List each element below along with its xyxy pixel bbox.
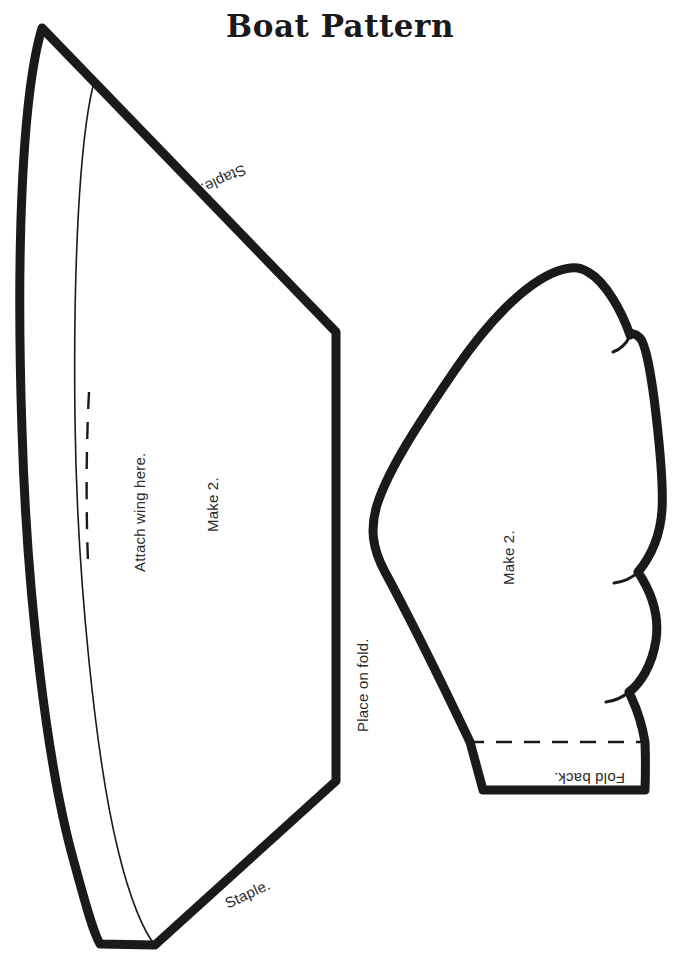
label-wing-make-2: Make 2. [500,530,517,585]
hull-outline [20,28,336,945]
pattern-drawing [0,0,676,957]
label-fold-back: Fold back. [554,770,625,787]
label-place-on-fold: Place on fold. [354,638,371,732]
wing-outline [373,268,662,790]
label-attach-wing-here: Attach wing here. [131,453,148,572]
pattern-page: Boat Pattern Staple. A [0,0,676,957]
label-hull-make-2: Make 2. [204,477,221,532]
